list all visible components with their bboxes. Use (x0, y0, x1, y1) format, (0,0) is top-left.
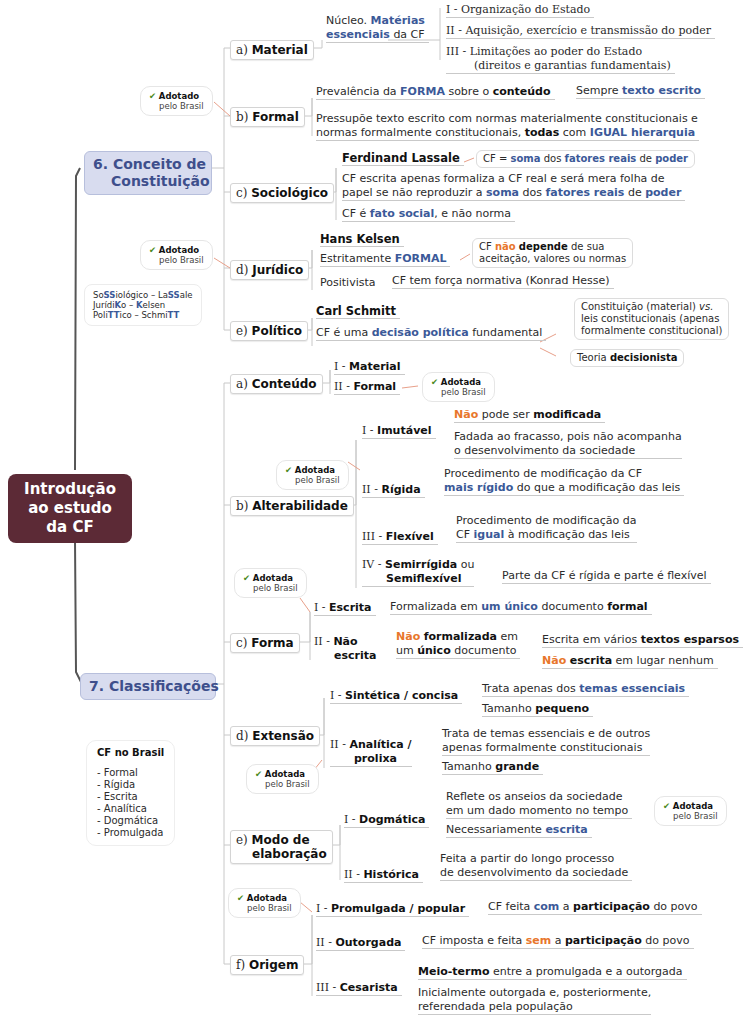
item-label: Não (333, 635, 357, 648)
desc-line: em um dado momento no tempo (446, 804, 632, 819)
text-segment: formalmente constitucional) (581, 325, 722, 336)
text-segment: de (636, 153, 655, 164)
text-segment: à modificação das leis (504, 528, 630, 541)
text-segment: depende (519, 241, 568, 252)
branch-politico[interactable]: e) Político (230, 321, 308, 341)
item-num: II - (334, 380, 353, 393)
rich-text: CF escrita apenas formaliza a CF real e … (342, 172, 685, 186)
desc-line: Reflete os anseios da sociedade (446, 790, 632, 804)
branch-conteudo[interactable]: a) Conteúdo (230, 374, 323, 394)
branch-prefix: a) (236, 377, 252, 391)
text-segment: pequeno (535, 702, 589, 715)
text-segment: Teoria (577, 352, 610, 363)
cf-no-brasil-item: - Escrita (97, 791, 164, 803)
text-segment: Sempre (576, 84, 622, 97)
text-segment: com (559, 126, 590, 139)
text-segment: soma (486, 186, 519, 199)
sociologico-line1: CF escrita apenas formaliza a CF real e … (342, 172, 685, 201)
branch-label: elaboração (236, 847, 327, 861)
cf-no-brasil-box: CF no Brasil - Formal - Rígida - Escrita… (86, 740, 175, 846)
desc-line: de desenvolvimento da sociedade (440, 866, 632, 881)
topic-conceito-de-constituicao[interactable]: 6. Conceito de Constituição (84, 151, 212, 195)
branch-juridico[interactable]: d) Jurídico (230, 260, 309, 280)
note-subtitle: pelo Brasil (255, 779, 310, 789)
note-title: Adotada (247, 893, 287, 903)
extensao-sintetica: I - Sintética / concisa (330, 689, 462, 704)
branch-forma[interactable]: c) Forma (230, 633, 300, 653)
text-segment: formalizada (424, 630, 497, 643)
branch-modo-de-elaboracao[interactable]: e) Modo de elaboração (230, 830, 333, 864)
text-segment: com (534, 900, 560, 913)
item-num: II - (362, 483, 381, 496)
check-icon: ✔ (255, 769, 262, 779)
item-label: Semirrígida (385, 558, 457, 571)
item-num: III - (316, 981, 340, 994)
schmitt-callout-2: Teoria decisionista (570, 349, 684, 367)
formal-line2: Pressupõe texto escrito com normas mater… (316, 112, 699, 141)
text-segment: documento (538, 600, 607, 613)
text-segment: CF (479, 241, 495, 252)
text-segment: essenciais (326, 28, 390, 41)
item-label: escrita (314, 649, 376, 663)
text-segment: conteúdo (493, 85, 551, 98)
branch-prefix: a) (236, 43, 252, 57)
origem-outorgada: II - Outorgada (316, 936, 405, 951)
text-segment: da CF (390, 28, 425, 41)
root-label-line: ao estudo (18, 499, 122, 518)
alterabilidade-semirrigida: IV - Semirrígida ou Semiflexível (362, 558, 474, 587)
sociologico-line2: CF é fato social, e não norma (342, 207, 515, 222)
text-segment: de (624, 186, 645, 199)
text-segment: grande (495, 760, 539, 773)
adopted-note-analitica: ✔ Adotada pelo Brasil (246, 764, 319, 794)
branch-label: Sociológico (251, 186, 328, 200)
note-subtitle: pelo Brasil (285, 475, 340, 485)
text-segment: poder (645, 186, 681, 199)
topic-classificacoes[interactable]: 7. Classificações (80, 673, 216, 700)
item-num: I - (330, 689, 345, 702)
branch-alterabilidade[interactable]: b) Alterabilidade (230, 496, 354, 516)
text-segment: do que a modificação das leis (513, 481, 680, 494)
root-node[interactable]: Introdução ao estudo da CF (8, 474, 132, 543)
text-segment: mais rígido (444, 481, 513, 494)
branch-origem[interactable]: f) Origem (230, 955, 304, 975)
item-label: Formal (353, 380, 396, 393)
historica-desc: Feita a partir do longo processo de dese… (440, 852, 632, 881)
item-label: Analítica / (349, 738, 411, 751)
text-segment: Tamanho (482, 702, 535, 715)
schmitt-callout-1: Constituição (material) vs. leis constit… (574, 298, 729, 340)
check-icon: ✔ (149, 245, 156, 255)
juridico-line1: Estritamente FORMAL (320, 252, 450, 267)
text-segment: leis constitucionais (apenas (581, 313, 719, 324)
text-segment: escrita (570, 654, 612, 667)
text-segment: modificada (533, 408, 601, 421)
text-segment: igual (474, 528, 505, 541)
adopted-note-escrita: ✔ Adotada pelo Brasil (234, 568, 307, 598)
branch-sociologico[interactable]: c) Sociológico (230, 183, 334, 203)
text-segment: Núcleo. (326, 14, 371, 27)
branch-material[interactable]: a) Material (230, 40, 314, 60)
text-segment: IGUAL hierarquia (590, 126, 695, 139)
text-segment: Escrita em vários (542, 633, 641, 646)
item-num: I - (334, 360, 349, 373)
mnemonic-line: SoSSiológico – LaSSale (93, 290, 193, 300)
rich-text: Núcleo. Matérias (326, 14, 429, 28)
topic-label-line: Constituição (93, 173, 203, 190)
item-num: I - (362, 424, 377, 437)
cf-no-brasil-item: - Analítica (97, 803, 164, 815)
text-segment: Procedimento de modificação da CF (444, 467, 642, 480)
text-segment: normas formalmente constitucionais, (316, 126, 525, 139)
branch-extensao[interactable]: d) Extensão (230, 726, 320, 746)
dogmatica-child-2: Necessariamente escrita (446, 823, 592, 838)
text-segment: do povo (650, 900, 698, 913)
branch-formal[interactable]: b) Formal (230, 107, 305, 127)
text-segment: CF é uma (316, 326, 372, 339)
conteudo-item-formal: II - Formal (334, 380, 400, 395)
text-segment: a (551, 934, 565, 947)
modo-dogmatica: I - Dogmática (344, 813, 429, 828)
nao-escrita-child-1: Escrita em vários textos esparsos (542, 633, 743, 648)
text-segment: não (495, 241, 516, 252)
text-segment: aceitação, valores ou normas (479, 253, 626, 264)
check-icon: ✔ (237, 893, 244, 903)
item-num: II - (330, 738, 349, 751)
text-segment: TT (108, 310, 120, 320)
